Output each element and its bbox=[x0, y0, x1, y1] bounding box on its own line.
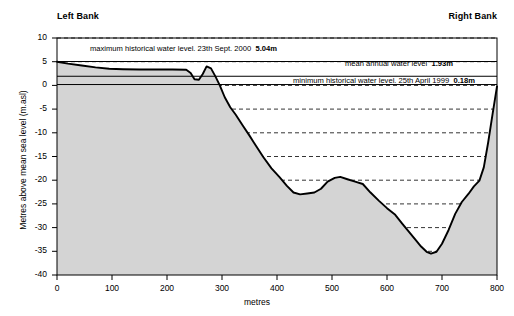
y-tick-label-5: 5 bbox=[13, 56, 47, 66]
annotation-text-mean-annual: mean annual water level bbox=[345, 59, 427, 68]
y-tick-label--10: -10 bbox=[13, 127, 47, 137]
x-axis-title: metres bbox=[0, 297, 514, 307]
annotation-mean-annual: mean annual water level 1.93m bbox=[345, 59, 453, 68]
annotation-text-min-historical: minimum historical water level. 25th Apr… bbox=[293, 76, 449, 85]
annotation-value-min-historical: 0.18m bbox=[453, 76, 475, 85]
y-tick-label--35: -35 bbox=[13, 245, 47, 255]
x-tick-label-200: 200 bbox=[147, 283, 187, 293]
x-tick-label-0: 0 bbox=[37, 283, 77, 293]
river-cross-section-figure: Left Bank Right Bank Metres above mean s… bbox=[0, 0, 514, 316]
y-tick-label--20: -20 bbox=[13, 174, 47, 184]
x-tick-label-400: 400 bbox=[257, 283, 297, 293]
x-tick-label-600: 600 bbox=[367, 283, 407, 293]
y-tick-label--25: -25 bbox=[13, 198, 47, 208]
y-tick-label--40: -40 bbox=[13, 269, 47, 279]
annotation-text-max-historical: maximum historical water level. 23th Sep… bbox=[90, 44, 251, 53]
annotation-value-mean-annual: 1.93m bbox=[431, 59, 453, 68]
y-tick-label--30: -30 bbox=[13, 222, 47, 232]
y-tick-label-10: 10 bbox=[13, 32, 47, 42]
x-tick-label-300: 300 bbox=[202, 283, 242, 293]
x-tick-label-800: 800 bbox=[477, 283, 514, 293]
x-tick-label-100: 100 bbox=[92, 283, 132, 293]
annotation-value-max-historical: 5.04m bbox=[255, 44, 277, 53]
y-tick-label--5: -5 bbox=[13, 103, 47, 113]
x-tick-label-500: 500 bbox=[312, 283, 352, 293]
annotation-max-historical: maximum historical water level. 23th Sep… bbox=[90, 44, 277, 53]
y-tick-label--15: -15 bbox=[13, 151, 47, 161]
annotation-min-historical: minimum historical water level. 25th Apr… bbox=[293, 76, 475, 85]
x-tick-label-700: 700 bbox=[422, 283, 462, 293]
y-tick-label-0: 0 bbox=[13, 79, 47, 89]
